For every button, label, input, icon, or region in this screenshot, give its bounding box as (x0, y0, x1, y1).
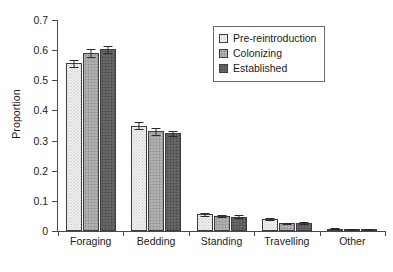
bar (197, 214, 213, 231)
error-bar (197, 213, 213, 215)
bar (131, 126, 147, 232)
error-bar (296, 222, 312, 224)
y-axis-tick (52, 20, 57, 21)
error-bar (214, 215, 230, 217)
chart-legend: Pre-reintroduction Colonizing Establishe… (213, 26, 325, 82)
grouped-bar-chart: Proportion 00.10.20.30.40.50.60.7 Foragi… (0, 0, 393, 272)
y-axis-tick (52, 201, 57, 202)
bar (66, 63, 82, 231)
x-axis-tick (385, 231, 386, 236)
bar-group-bedding (131, 20, 181, 231)
y-axis-tick (52, 80, 57, 81)
x-axis-label-travelling: Travelling (254, 236, 319, 248)
legend-label-established: Established (233, 63, 287, 74)
legend-swatch-pre-reintroduction (219, 34, 228, 43)
legend-swatch-colonizing (219, 49, 228, 58)
legend-item: Pre-reintroduction (219, 31, 316, 46)
legend-label-colonizing: Colonizing (233, 48, 282, 59)
y-axis-tick-label: 0.4 (8, 105, 48, 116)
legend-item: Colonizing (219, 46, 316, 61)
error-bar (344, 229, 360, 230)
error-bar (165, 131, 181, 136)
bar-group-foraging (66, 20, 116, 231)
error-bar (131, 122, 147, 128)
y-axis-tick (52, 110, 57, 111)
bar (148, 131, 164, 231)
error-bar (262, 218, 278, 220)
x-axis-label-other: Other (320, 236, 385, 248)
error-bar (361, 229, 377, 230)
error-bar (148, 128, 164, 135)
y-axis-tick-label: 0.7 (8, 15, 48, 26)
x-axis-label-bedding: Bedding (123, 236, 188, 248)
bar (100, 49, 116, 231)
legend-label-pre-reintroduction: Pre-reintroduction (233, 33, 316, 44)
y-axis-tick (52, 141, 57, 142)
error-bar (100, 46, 116, 53)
y-axis-tick (52, 231, 57, 232)
error-bar (279, 223, 295, 225)
bar-group-other (327, 20, 377, 231)
legend-swatch-established (219, 64, 228, 73)
bar (83, 53, 99, 231)
y-axis-tick-label: 0.5 (8, 75, 48, 86)
x-axis-label-standing: Standing (189, 236, 254, 248)
bar (165, 133, 181, 231)
y-axis-tick (52, 171, 57, 172)
error-bar (327, 228, 343, 229)
y-axis-tick-label: 0.1 (8, 196, 48, 207)
y-axis-tick (52, 50, 57, 51)
error-bar (83, 49, 99, 57)
error-bar (231, 215, 247, 217)
y-axis-tick-label: 0.2 (8, 166, 48, 177)
legend-item: Established (219, 61, 316, 76)
bar (214, 216, 230, 231)
x-axis-line (57, 231, 385, 232)
y-axis-tick-label: 0.6 (8, 45, 48, 56)
y-axis-tick-label: 0 (8, 226, 48, 237)
x-axis-label-foraging: Foraging (58, 236, 123, 248)
y-axis-tick-label: 0.3 (8, 136, 48, 147)
error-bar (66, 60, 82, 67)
